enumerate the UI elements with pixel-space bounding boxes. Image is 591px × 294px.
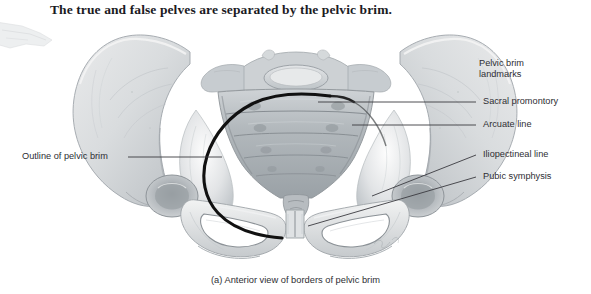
pelvic-brim-outline [204, 94, 386, 238]
label-pelvic-brim-landmarks: Pelvic brim landmarks [479, 58, 549, 81]
pelvis-illustration [0, 0, 591, 294]
right-acetabulum [392, 175, 444, 217]
partial-bone-fragment [0, 22, 52, 48]
sacrum [218, 89, 374, 198]
figure-title: The true and false pelves are separated … [50, 2, 392, 18]
sacral-promontory [201, 50, 391, 92]
leader-lines [128, 102, 476, 226]
right-iliac-fossa [357, 110, 411, 217]
label-sacral-promontory: Sacral promontory [483, 96, 558, 107]
leader-pubic-symphysis [308, 177, 476, 226]
label-arcuate-line: Arcuate line [483, 119, 532, 130]
label-iliopectineal-line: Iliopectineal line [483, 149, 548, 160]
left-ischium [181, 200, 286, 259]
artist-signature [374, 237, 399, 247]
leader-iliopectineal-line [372, 155, 476, 196]
left-acetabulum [146, 175, 198, 217]
label-pubic-symphysis: Pubic symphysis [483, 171, 551, 182]
label-pelvic-brim-landmarks-line1: Pelvic brim [479, 58, 524, 68]
figure-anterior-pelvic-brim: The true and false pelves are separated … [0, 0, 591, 294]
figure-caption: (a) Anterior view of borders of pelvic b… [0, 275, 591, 285]
coccyx [283, 195, 309, 222]
pubic-symphysis [286, 210, 304, 238]
right-ischium [304, 200, 409, 259]
label-pelvic-brim-landmarks-line2: landmarks [479, 69, 521, 79]
left-ilium [73, 35, 190, 207]
label-outline-of-pelvic-brim: Outline of pelvic brim [22, 151, 108, 162]
left-iliac-fossa [180, 110, 234, 217]
